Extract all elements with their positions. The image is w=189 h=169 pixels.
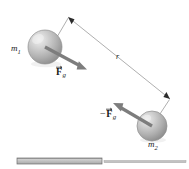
force-neg-fg-label: − F g bbox=[100, 108, 116, 121]
separation-symbol: r bbox=[116, 52, 119, 61]
force-neg-fg-subscript: g bbox=[113, 113, 117, 121]
vector-arrow-overbar-icon bbox=[106, 107, 112, 111]
vector-arrow-overbar-icon bbox=[56, 65, 62, 69]
mass1-subscript: 1 bbox=[18, 48, 21, 55]
mass2-label: m2 bbox=[148, 140, 158, 151]
force-arrowhead-fg bbox=[77, 61, 87, 69]
figure-canvas bbox=[0, 0, 189, 169]
force-fg-vector-symbol: F bbox=[56, 66, 62, 77]
force-fg-label: F g bbox=[56, 66, 66, 79]
force-neg-fg-vector-symbol: F bbox=[106, 108, 112, 119]
measure-arrowhead-top bbox=[68, 17, 75, 24]
leader-line-mass1 bbox=[57, 18, 69, 38]
separation-label: r bbox=[116, 53, 119, 61]
bottom-bar-left bbox=[17, 158, 102, 164]
measure-arrowhead-bottom bbox=[163, 92, 170, 99]
gravitation-figure: m1 m2 r F g − F bbox=[0, 0, 189, 169]
force-fg-subscript: g bbox=[63, 71, 67, 79]
mass1-label: m1 bbox=[11, 44, 21, 55]
mass2-subscript: 2 bbox=[155, 144, 158, 151]
bottom-rule-right bbox=[104, 161, 186, 163]
